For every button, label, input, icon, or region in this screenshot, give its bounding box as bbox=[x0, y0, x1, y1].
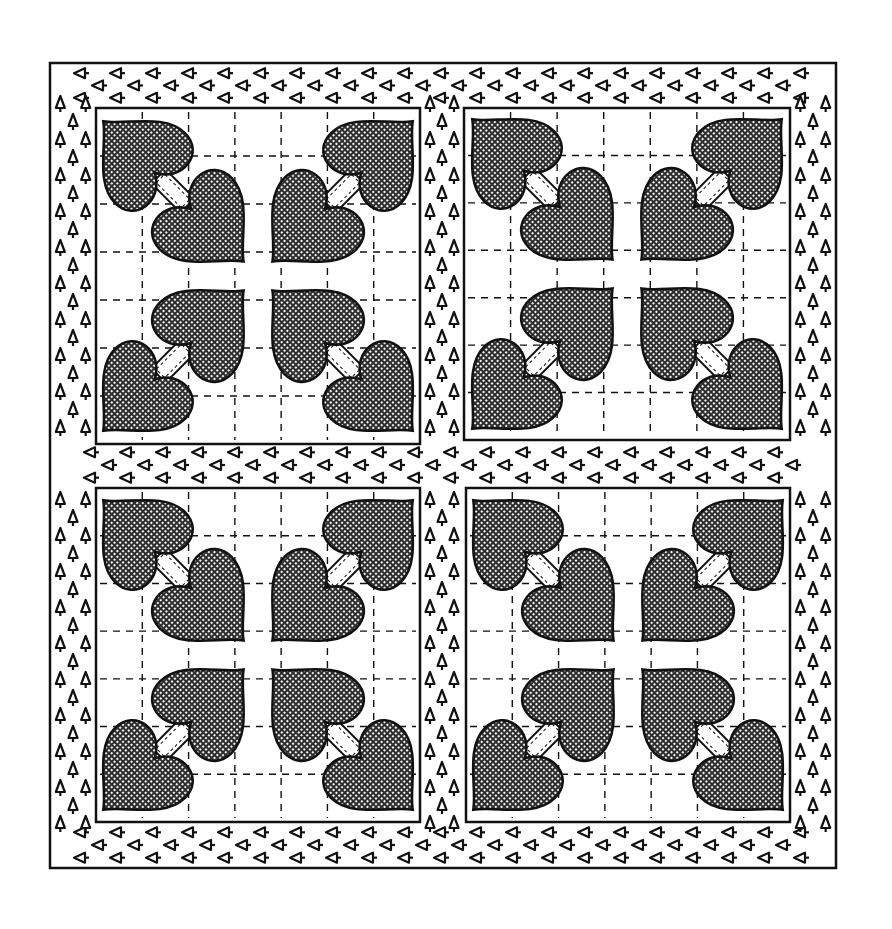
heart-block-top-left bbox=[68, 86, 448, 466]
heart-block-top-right bbox=[437, 84, 817, 464]
heart-block-bottom-right bbox=[438, 465, 818, 845]
heart-block-bottom-left bbox=[68, 465, 448, 845]
quilt-illustration bbox=[0, 0, 892, 929]
